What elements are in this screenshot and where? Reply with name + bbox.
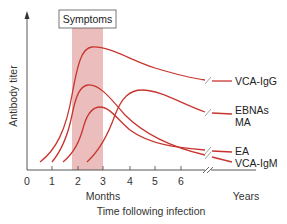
label-vca-igg: VCA-IgG (235, 75, 277, 87)
curve-ebnas-tail (212, 113, 232, 114)
tick-1: 1 (49, 175, 55, 187)
tick-2: 2 (75, 175, 81, 187)
tick-6: 6 (178, 175, 184, 187)
label-vca-igm: VCA-IgM (235, 157, 278, 169)
tick-3: 3 (100, 175, 106, 187)
symptoms-label: Symptoms (63, 13, 113, 25)
tick-5: 5 (152, 175, 158, 187)
curves (40, 47, 232, 162)
years-label: Years (233, 190, 259, 202)
x-axis-title: Time following infection (97, 205, 206, 217)
y-axis-title: Antibody titer (7, 65, 19, 127)
curve-ea-tail (212, 151, 232, 152)
label-ea: EA (235, 145, 249, 157)
label-ma: MA (235, 116, 251, 128)
months-label: Months (86, 190, 120, 202)
x-ticks (52, 166, 181, 170)
y-axis-arrow-icon (25, 11, 30, 19)
label-ebnas: EBNAs (235, 104, 269, 116)
curve-vca-igg (40, 47, 205, 162)
antibody-chart: Symptoms Antibody titer 0 1 2 3 4 5 6 Mo… (0, 0, 287, 224)
curve-break-marks (205, 77, 211, 159)
tick-0: 0 (24, 175, 30, 187)
curve-ebnas (87, 90, 205, 162)
curve-vca-igm-tail (212, 157, 232, 162)
tick-4: 4 (127, 175, 133, 187)
